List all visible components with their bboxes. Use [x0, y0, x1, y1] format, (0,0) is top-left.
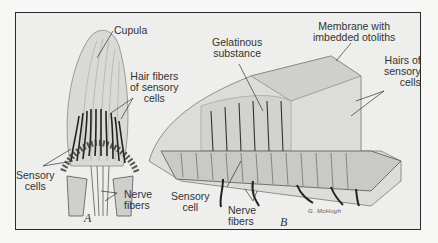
label-nerve-fibers-a: Nerve fibers	[124, 189, 152, 211]
panel-label-a: A	[84, 211, 91, 226]
label-line: cell	[171, 202, 210, 213]
label-gelatinous-substance: Gelatinous substance	[212, 37, 262, 59]
label-line: cells	[130, 93, 178, 104]
panel-label-b: B	[280, 215, 287, 230]
artist-signature: G. McHugh	[308, 208, 341, 214]
label-sensory-cell: Sensory cell	[171, 191, 210, 213]
label-line: cells	[384, 77, 421, 88]
label-line: imbedded otoliths	[313, 32, 395, 43]
label-hair-fibers: Hair fibers of sensory cells	[130, 71, 178, 104]
label-membrane-otoliths: Membrane with imbedded otoliths	[313, 21, 395, 43]
label-line: cells	[16, 181, 55, 192]
label-hairs-sensory-cells: Hairs of sensory cells	[384, 55, 421, 88]
panel-a-drawing	[43, 30, 137, 216]
label-cupula: Cupula	[114, 25, 147, 36]
label-nerve-fibers-b: Nerve fibers	[228, 205, 256, 227]
label-sensory-cells: Sensory cells	[16, 170, 55, 192]
label-line: fibers	[228, 216, 256, 227]
label-line: fibers	[124, 200, 152, 211]
label-line: substance	[212, 48, 262, 59]
panel-b-drawing	[149, 43, 401, 207]
figure-frame: Cupula Hair fibers of sensory cells Sens…	[15, 12, 421, 230]
